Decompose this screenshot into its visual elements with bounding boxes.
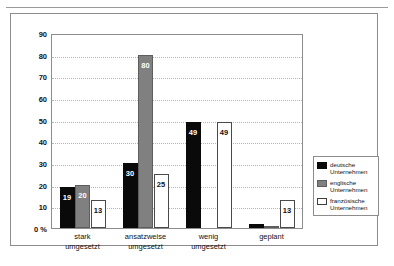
- category-label-line: umgesetzt: [177, 242, 240, 252]
- category-label-line: umgesetzt: [51, 242, 114, 252]
- category-label-line: stark: [51, 232, 114, 242]
- category-label-wenig-umgesetzt: wenigumgesetzt: [177, 232, 240, 251]
- bar-stark-umgesetzt-series-1: 19: [60, 187, 75, 228]
- category-label-stark-umgesetzt: starkumgesetzt: [51, 232, 114, 251]
- legend-label-line: Unternehmen: [330, 186, 368, 193]
- category-label-ansatzweise-umgesetzt: ansatzweiseumgesetzt: [114, 232, 177, 251]
- y-tick-label-90: 90: [21, 30, 47, 39]
- y-tick-label-40: 40: [21, 138, 47, 147]
- legend-swatch-black: [317, 162, 327, 169]
- y-tick-label-50: 50: [21, 116, 47, 125]
- chart-frame: 0 %102030405060708090 192013308025494913…: [10, 13, 378, 246]
- legend-swatch-gray: [317, 180, 327, 187]
- legend-label: englischeUnternehmen: [330, 179, 368, 194]
- bar-value-label: 49: [218, 129, 231, 137]
- y-axis-tick-labels: 0 %102030405060708090: [19, 34, 47, 229]
- plot-area: 192013308025494913: [51, 34, 303, 229]
- bar-groups: 192013308025494913: [52, 35, 302, 228]
- chart-legend: deutscheUnternehmenenglischeUnternehmenf…: [313, 156, 379, 216]
- bar-ansatzweise-umgesetzt-series-2: 80: [138, 55, 153, 228]
- legend-label-line: Unternehmen: [330, 168, 368, 175]
- bar-value-label: 80: [139, 62, 152, 70]
- legend-item-3: französischeUnternehmen: [317, 197, 375, 212]
- legend-label-line: französische: [330, 197, 365, 204]
- y-tick-label-80: 80: [21, 51, 47, 60]
- top-horizontal-rule: [6, 7, 388, 8]
- legend-label-line: englische: [330, 179, 356, 186]
- category-label-line: umgesetzt: [114, 242, 177, 252]
- legend-label: französischeUnternehmen: [330, 197, 368, 212]
- x-axis-category-labels: starkumgesetztansatzweiseumgesetztwenigu…: [51, 232, 303, 258]
- bar-value-label: 13: [92, 207, 105, 215]
- bar-value-label: 30: [124, 170, 137, 178]
- legend-item-1: deutscheUnternehmen: [317, 161, 375, 176]
- bar-geplant-series-2: [264, 226, 279, 228]
- y-tick-label-70: 70: [21, 73, 47, 82]
- category-label-line: ansatzweise: [114, 232, 177, 242]
- y-tick-label-20: 20: [21, 181, 47, 190]
- legend-label: deutscheUnternehmen: [330, 161, 368, 176]
- bar-geplant-series-3: 13: [280, 200, 295, 228]
- category-label-line: wenig: [177, 232, 240, 242]
- bar-wenig-umgesetzt-series-3: 49: [217, 122, 232, 228]
- bar-ansatzweise-umgesetzt-series-1: 30: [123, 163, 138, 228]
- y-tick-label-0: 0 %: [21, 225, 47, 234]
- bar-value-label: 13: [281, 207, 294, 215]
- y-tick-label-60: 60: [21, 95, 47, 104]
- bar-value-label: 25: [155, 181, 168, 189]
- bar-value-label: 19: [61, 194, 74, 202]
- chart-page: 0 %102030405060708090 192013308025494913…: [0, 0, 394, 266]
- legend-swatch-white: [317, 198, 327, 205]
- y-tick-label-30: 30: [21, 160, 47, 169]
- bar-ansatzweise-umgesetzt-series-3: 25: [154, 174, 169, 228]
- bar-wenig-umgesetzt-series-1: 49: [186, 122, 201, 228]
- bar-value-label: 49: [187, 129, 200, 137]
- legend-item-2: englischeUnternehmen: [317, 179, 375, 194]
- bar-value-label: 20: [76, 192, 89, 200]
- category-label-line: geplant: [240, 232, 303, 242]
- legend-label-line: deutsche: [330, 161, 355, 168]
- bar-stark-umgesetzt-series-2: 20: [75, 185, 90, 228]
- bar-geplant-series-1: [249, 224, 264, 228]
- bar-stark-umgesetzt-series-3: 13: [91, 200, 106, 228]
- legend-label-line: Unternehmen: [330, 204, 368, 211]
- category-label-geplant: geplant: [240, 232, 303, 242]
- y-tick-label-10: 10: [21, 203, 47, 212]
